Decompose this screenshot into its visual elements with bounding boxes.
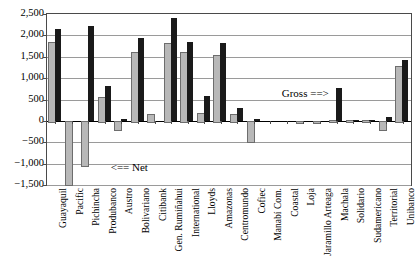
x-axis-tick-mark <box>221 121 222 124</box>
bar-group <box>179 14 196 185</box>
bar-gross <box>336 88 342 121</box>
bar-gross <box>171 18 177 121</box>
bar-group <box>130 14 147 185</box>
x-axis-label: Unibanco <box>406 188 416 276</box>
x-axis-tick-mark <box>121 121 122 124</box>
bar-gross <box>402 60 408 121</box>
y-axis-tick-label: −1,000 <box>0 158 44 168</box>
bar-chart: 2,5002,0001,5001,0005000−500−1,000−1,500… <box>0 0 419 278</box>
x-axis-tick-mark <box>171 121 172 124</box>
x-axis-label: International <box>191 188 201 276</box>
x-axis-label: Gen. Rumiñahui <box>174 188 184 276</box>
x-axis-label: Manabí Com. <box>273 188 283 276</box>
bar-net <box>247 121 255 143</box>
bar-group <box>345 14 362 185</box>
x-axis-label: Citibank <box>158 188 168 276</box>
x-axis-tick-mark <box>188 121 189 124</box>
x-axis-tick-mark <box>353 121 354 124</box>
x-axis-tick-mark <box>72 121 73 124</box>
bar-group <box>295 14 312 185</box>
y-axis-tick-label: 2,500 <box>0 8 44 18</box>
x-axis-label: Territorial <box>389 188 399 276</box>
bar-gross <box>187 42 193 121</box>
x-axis-label: Centromundo <box>240 188 250 276</box>
bar-group <box>246 14 263 185</box>
net-annotation: <== Net <box>111 161 148 173</box>
bar-net <box>81 121 89 167</box>
bar-gross <box>88 26 94 121</box>
y-axis-tick-label: 1,500 <box>0 51 44 61</box>
x-axis-tick-mark <box>270 121 271 124</box>
x-axis-label: Bolivariano <box>141 188 151 276</box>
bar-group <box>394 14 411 185</box>
x-axis-tick-mark <box>204 121 205 124</box>
bar-group <box>146 14 163 185</box>
x-axis-label: Sudamericano <box>373 188 383 276</box>
gridline <box>47 185 411 186</box>
x-axis-label: Lloyds <box>207 188 217 276</box>
bar-group <box>64 14 81 185</box>
bar-group <box>312 14 329 185</box>
y-axis-tick-mark <box>43 185 47 186</box>
plot-area: <== NetGross ==> <box>46 13 412 186</box>
x-axis-tick-mark <box>155 121 156 124</box>
bar-gross <box>237 108 243 121</box>
x-axis-tick-mark <box>88 121 89 124</box>
x-axis-label: Pacific <box>75 188 85 276</box>
x-axis-tick-mark <box>55 121 56 124</box>
bar-gross <box>204 96 210 121</box>
x-axis-tick-mark <box>370 121 371 124</box>
bar-group <box>328 14 345 185</box>
y-axis-tick-label: 0 <box>0 115 44 125</box>
bar-group <box>113 14 130 185</box>
bar-group <box>378 14 395 185</box>
x-axis-label: Produbanco <box>108 188 118 276</box>
x-axis-tick-mark <box>386 121 387 124</box>
bar-net <box>65 121 73 186</box>
x-axis-label: Pichincha <box>91 188 101 276</box>
y-axis-tick-label: 2,000 <box>0 29 44 39</box>
bar-series-container <box>47 14 411 185</box>
x-axis-label: Machala <box>340 188 350 276</box>
bar-group <box>80 14 97 185</box>
bar-gross <box>138 38 144 121</box>
x-axis-tick-mark <box>303 121 304 124</box>
x-axis-tick-mark <box>287 121 288 124</box>
bar-group <box>262 14 279 185</box>
x-axis-tick-mark <box>337 121 338 124</box>
y-axis-tick-label: −500 <box>0 136 44 146</box>
y-axis-tick-label: 500 <box>0 94 44 104</box>
y-axis-tick-label: 1,000 <box>0 72 44 82</box>
bar-group <box>212 14 229 185</box>
bar-gross <box>105 86 111 121</box>
y-axis-tick-label: −1,500 <box>0 179 44 189</box>
x-axis-label: Coastal <box>290 188 300 276</box>
bar-group <box>279 14 296 185</box>
x-axis-label: Amazonas <box>224 188 234 276</box>
x-axis-tick-mark <box>138 121 139 124</box>
bar-gross <box>220 43 226 121</box>
bar-gross <box>55 29 61 120</box>
x-axis-label: Loja <box>306 188 316 276</box>
bar-group <box>196 14 213 185</box>
bar-group <box>229 14 246 185</box>
gross-annotation: Gross ==> <box>282 87 329 99</box>
x-axis-label: Cofiec <box>257 188 267 276</box>
x-axis-tick-mark <box>320 121 321 124</box>
x-axis-label: Guayaquil <box>58 188 68 276</box>
x-axis-label: Jaramillo Arteaga <box>323 188 333 276</box>
x-axis-tick-mark <box>105 121 106 124</box>
bar-group <box>163 14 180 185</box>
x-axis-label: Solidario <box>356 188 366 276</box>
x-axis-tick-mark <box>237 121 238 124</box>
bar-group <box>97 14 114 185</box>
bar-group <box>361 14 378 185</box>
x-axis-labels: GuayaquilPacificPichinchaProdubancoAustr… <box>46 188 412 278</box>
x-axis-tick-mark <box>403 121 404 124</box>
x-axis-tick-mark <box>254 121 255 124</box>
bar-group <box>47 14 64 185</box>
x-axis-label: Austro <box>124 188 134 276</box>
